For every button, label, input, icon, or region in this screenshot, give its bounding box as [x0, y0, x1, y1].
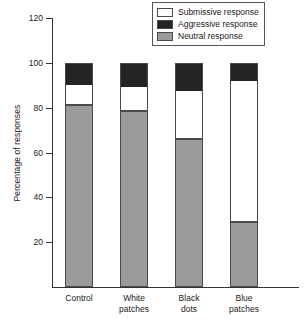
legend-label-aggressive: Aggressive response: [178, 20, 257, 29]
chart-legend: Submissive response Aggressive response …: [152, 2, 265, 46]
segment-aggressive-black-dots: [176, 64, 202, 91]
y-tick-label-40: 40: [13, 193, 43, 202]
y-tick-label-60: 60: [13, 149, 43, 158]
bar-black-dots: [175, 63, 203, 287]
legend-label-neutral: Neutral response: [178, 32, 243, 41]
bar-blue-patches: [230, 63, 258, 287]
segment-neutral-black-dots: [176, 139, 202, 286]
legend-item-neutral: Neutral response: [157, 30, 259, 42]
bar-control: [65, 63, 93, 287]
legend-item-submissive: Submissive response: [157, 6, 259, 18]
segment-submissive-control: [66, 85, 92, 105]
segment-neutral-blue-patches: [231, 222, 257, 286]
segment-submissive-black-dots: [176, 91, 202, 140]
segment-aggressive-blue-patches: [231, 64, 257, 81]
y-tick-label-120: 120: [13, 14, 43, 23]
legend-item-aggressive: Aggressive response: [157, 18, 259, 30]
segment-submissive-blue-patches: [231, 81, 257, 222]
bar-white-patches: [120, 63, 148, 287]
plot-area: [52, 18, 299, 287]
stacked-bar-chart: Percentage of responses 20406080100120 C…: [0, 0, 307, 330]
legend-swatch-neutral-icon: [157, 32, 173, 41]
segment-neutral-control: [66, 105, 92, 286]
segment-aggressive-white-patches: [121, 64, 147, 87]
segment-submissive-white-patches: [121, 87, 147, 110]
segment-aggressive-control: [66, 64, 92, 85]
x-axis-label-line-1: patches: [208, 304, 280, 315]
y-tick-label-20: 20: [13, 238, 43, 247]
legend-swatch-submissive-icon: [157, 8, 173, 17]
y-tick-label-100: 100: [13, 59, 43, 68]
legend-label-submissive: Submissive response: [178, 8, 259, 17]
segment-neutral-white-patches: [121, 111, 147, 287]
x-axis-line: [52, 287, 299, 288]
y-tick-label-80: 80: [13, 104, 43, 113]
legend-swatch-aggressive-icon: [157, 20, 173, 29]
x-axis-label-blue-patches: Bluepatches: [208, 293, 280, 315]
x-axis-label-line-0: Blue: [208, 293, 280, 304]
